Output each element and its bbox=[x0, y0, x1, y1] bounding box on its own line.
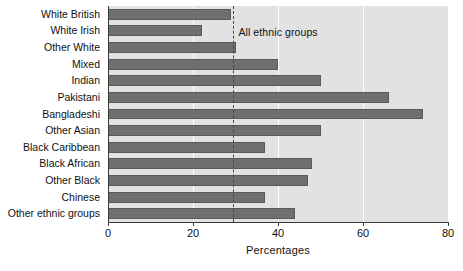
plot-area: All ethnic groups bbox=[108, 6, 448, 222]
x-tick-80 bbox=[448, 222, 449, 226]
bar-chart: All ethnic groups White BritishWhite Iri… bbox=[0, 0, 463, 271]
y-axis-label-black-african: Black African bbox=[39, 158, 100, 169]
bar-black-african bbox=[108, 158, 312, 169]
reference-line bbox=[233, 6, 234, 222]
y-axis-label-other-black: Other Black bbox=[45, 175, 100, 186]
y-axis-label-white-irish: White Irish bbox=[50, 25, 100, 36]
y-axis-label-black-caribbean: Black Caribbean bbox=[23, 142, 100, 153]
bar-white-irish bbox=[108, 25, 202, 36]
x-tick-0 bbox=[108, 222, 109, 226]
bar-row bbox=[108, 205, 448, 222]
bar-bangladeshi bbox=[108, 109, 423, 120]
y-axis-label-other-white: Other White bbox=[44, 42, 100, 53]
x-tick-40 bbox=[278, 222, 279, 226]
x-axis-title: Percentages bbox=[108, 244, 448, 256]
y-axis-label-mixed: Mixed bbox=[72, 59, 100, 70]
y-axis-line bbox=[108, 6, 109, 223]
x-tick-label-0: 0 bbox=[105, 227, 111, 239]
y-axis-label-other-asian: Other Asian bbox=[45, 125, 100, 136]
bar-row bbox=[108, 6, 448, 23]
bar-row bbox=[108, 72, 448, 89]
x-tick-label-80: 80 bbox=[442, 227, 454, 239]
bar-black-caribbean bbox=[108, 142, 265, 153]
x-tick-60 bbox=[363, 222, 364, 226]
y-axis-label-indian: Indian bbox=[71, 75, 100, 86]
bar-row bbox=[108, 89, 448, 106]
bar-mixed bbox=[108, 59, 278, 70]
bar-white-british bbox=[108, 9, 231, 20]
bar-row bbox=[108, 39, 448, 56]
y-axis-label-pakistani: Pakistani bbox=[57, 92, 100, 103]
bar-row bbox=[108, 172, 448, 189]
y-axis-label-chinese: Chinese bbox=[61, 192, 100, 203]
y-axis-label-bangladeshi: Bangladeshi bbox=[42, 109, 100, 120]
bar-row bbox=[108, 56, 448, 73]
bar-other-white bbox=[108, 42, 236, 53]
x-tick-label-20: 20 bbox=[187, 227, 199, 239]
bar-row bbox=[108, 156, 448, 173]
bar-row bbox=[108, 122, 448, 139]
bar-series bbox=[108, 6, 448, 222]
x-tick-20 bbox=[193, 222, 194, 226]
bar-row bbox=[108, 139, 448, 156]
x-tick-label-60: 60 bbox=[357, 227, 369, 239]
reference-line-label: All ethnic groups bbox=[238, 26, 317, 38]
bar-pakistani bbox=[108, 92, 389, 103]
y-axis-label-other-ethnic-groups: Other ethnic groups bbox=[8, 208, 100, 219]
x-tick-label-40: 40 bbox=[272, 227, 284, 239]
bar-other-ethnic-groups bbox=[108, 208, 295, 219]
bar-other-black bbox=[108, 175, 308, 186]
bar-row bbox=[108, 106, 448, 123]
y-axis-label-white-british: White British bbox=[41, 9, 100, 20]
bar-row bbox=[108, 189, 448, 206]
y-axis-category-labels: White BritishWhite IrishOther WhiteMixed… bbox=[0, 6, 104, 222]
bar-chinese bbox=[108, 192, 265, 203]
bar-other-asian bbox=[108, 125, 321, 136]
bar-indian bbox=[108, 75, 321, 86]
